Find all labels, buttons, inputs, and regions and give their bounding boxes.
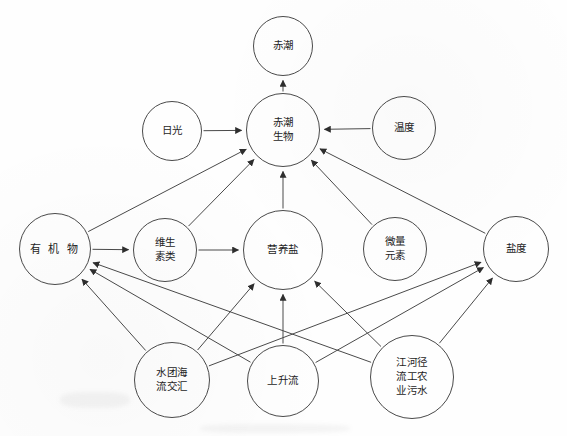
node-label-organic: 有 机 物 bbox=[30, 242, 81, 257]
node-label-upwelling: 上升流 bbox=[267, 374, 299, 388]
node-label-vitamins: 维生 素类 bbox=[155, 236, 176, 264]
node-salinity[interactable]: 盐度 bbox=[483, 216, 549, 282]
node-organic[interactable]: 有 机 物 bbox=[19, 213, 91, 285]
node-water_mass[interactable]: 水团海 流交汇 bbox=[134, 342, 210, 418]
node-label-temperature: 温度 bbox=[394, 121, 415, 135]
node-temperature[interactable]: 温度 bbox=[372, 96, 436, 160]
scan-smudge bbox=[60, 392, 130, 408]
node-label-river_waste: 江河径 流工农 业污水 bbox=[396, 356, 428, 398]
node-label-sunlight: 日光 bbox=[162, 124, 183, 138]
node-label-water_mass: 水团海 流交汇 bbox=[156, 366, 188, 394]
node-nutrients[interactable]: 营养盐 bbox=[243, 210, 323, 290]
node-label-red_tide_org: 赤潮 生物 bbox=[273, 116, 294, 144]
edge-trace_el-to-red_tide_org bbox=[311, 160, 372, 224]
node-sunlight[interactable]: 日光 bbox=[142, 101, 202, 161]
node-river_waste[interactable]: 江河径 流工农 业污水 bbox=[370, 335, 454, 419]
node-vitamins[interactable]: 维生 素类 bbox=[133, 218, 197, 282]
scan-smudge-bottom bbox=[200, 424, 350, 433]
edge-river_waste-to-nutrients bbox=[315, 281, 381, 346]
edge-water_mass-to-organic bbox=[82, 279, 146, 350]
edge-vitamins-to-red_tide_org bbox=[189, 160, 254, 227]
node-label-red_tide: 赤潮 bbox=[273, 39, 294, 53]
edge-temperature-to-red_tide_org bbox=[325, 129, 371, 130]
edge-river_waste-to-organic bbox=[93, 263, 371, 363]
node-label-salinity: 盐度 bbox=[506, 242, 527, 256]
node-trace_el[interactable]: 微量 元素 bbox=[363, 217, 427, 281]
node-red_tide[interactable]: 赤潮 bbox=[253, 16, 313, 76]
node-red_tide_org[interactable]: 赤潮 生物 bbox=[246, 93, 320, 167]
diagram-canvas: 赤潮赤潮 生物日光温度有 机 物维生 素类营养盐微量 元素盐度水团海 流交汇上升… bbox=[0, 0, 567, 436]
node-label-trace_el: 微量 元素 bbox=[385, 235, 406, 263]
node-label-nutrients: 营养盐 bbox=[267, 243, 299, 257]
node-upwelling[interactable]: 上升流 bbox=[247, 345, 319, 417]
